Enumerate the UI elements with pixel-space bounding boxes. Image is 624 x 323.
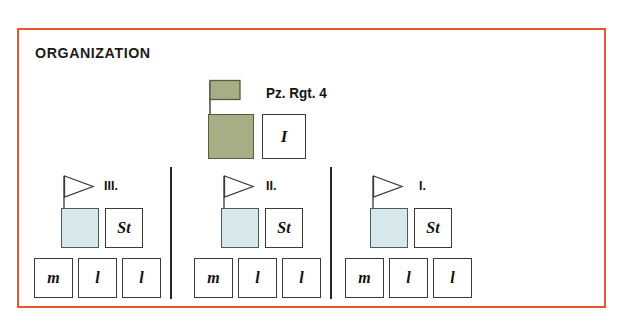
battalion-ii-staff-box[interactable]: St bbox=[265, 208, 303, 248]
battalion-iii-company-2[interactable]: l bbox=[78, 258, 117, 298]
battalion-i-label: I. bbox=[419, 178, 426, 193]
battalion-i-pennant-icon bbox=[371, 174, 415, 212]
battalion-iii-pennant-icon bbox=[62, 174, 106, 212]
battalion-iii-hq-box[interactable] bbox=[61, 208, 99, 248]
battalion-i-company-3[interactable]: l bbox=[433, 258, 472, 298]
battalion-i-staff-box[interactable]: St bbox=[414, 208, 452, 248]
battalion-ii-pennant-icon bbox=[222, 174, 266, 212]
battalion-ii-company-1[interactable]: m bbox=[194, 258, 233, 298]
battalion-ii-company-2[interactable]: l bbox=[238, 258, 277, 298]
page-title: ORGANIZATION bbox=[35, 44, 151, 62]
organization-diagram: ORGANIZATION Pz. Rgt. 4 I bbox=[0, 0, 624, 323]
battalion-ii-label: II. bbox=[266, 178, 276, 193]
regiment-label: Pz. Rgt. 4 bbox=[266, 85, 327, 101]
group-divider-2 bbox=[330, 167, 332, 299]
battalion-iii-company-3[interactable]: l bbox=[122, 258, 161, 298]
battalion-iii-company-1[interactable]: m bbox=[34, 258, 73, 298]
battalion-ii-company-3[interactable]: l bbox=[282, 258, 321, 298]
battalion-i-hq-box[interactable] bbox=[370, 208, 408, 248]
battalion-i-company-2[interactable]: l bbox=[389, 258, 428, 298]
battalion-iii-staff-box[interactable]: St bbox=[105, 208, 143, 248]
group-divider-1 bbox=[170, 167, 172, 299]
regiment-staff-box[interactable]: I bbox=[262, 114, 306, 159]
battalion-iii-label: III. bbox=[104, 178, 118, 193]
battalion-ii-hq-box[interactable] bbox=[221, 208, 259, 248]
regiment-hq-box[interactable] bbox=[208, 114, 254, 159]
organization-panel: ORGANIZATION Pz. Rgt. 4 I bbox=[17, 28, 606, 308]
battalion-i-company-1[interactable]: m bbox=[345, 258, 384, 298]
